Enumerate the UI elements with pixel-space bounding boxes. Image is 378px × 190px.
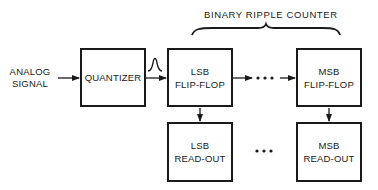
analog-signal-label: ANALOG SIGNAL (6, 66, 54, 90)
counter-title: BINARY RIPPLE COUNTER (204, 9, 334, 21)
analog-signal-line2: SIGNAL (6, 78, 54, 90)
curly-brace-icon (192, 24, 340, 35)
block-diagram: BINARY RIPPLE COUNTER ANALOG SIGNAL QUAN… (0, 0, 378, 190)
msb-readout-line1: MSB (318, 139, 339, 152)
quantizer-block: QUANTIZER (80, 48, 146, 107)
msb-flipflop-line1: MSB (318, 65, 339, 78)
ellipsis-icon (256, 76, 273, 79)
pulse-icon (148, 59, 162, 72)
msb-readout-line2: READ-OUT (303, 152, 354, 165)
quantizer-label: QUANTIZER (85, 71, 142, 84)
msb-flipflop-block: MSB FLIP-FLOP (296, 48, 362, 107)
lsb-readout-block: LSB READ-OUT (167, 122, 233, 182)
msb-readout-block: MSB READ-OUT (296, 122, 362, 182)
lsb-readout-line1: LSB (191, 139, 210, 152)
lsb-flipflop-block: LSB FLIP-FLOP (167, 48, 233, 107)
lsb-flipflop-line1: LSB (191, 65, 210, 78)
ellipsis-icon (255, 149, 272, 152)
lsb-flipflop-line2: FLIP-FLOP (175, 78, 225, 91)
analog-signal-line1: ANALOG (6, 66, 54, 78)
msb-flipflop-line2: FLIP-FLOP (304, 78, 354, 91)
lsb-readout-line2: READ-OUT (174, 152, 225, 165)
